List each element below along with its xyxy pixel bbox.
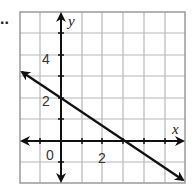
origin-label: 0 <box>46 147 54 163</box>
x-axis-label: x <box>171 121 179 137</box>
y-tick-label-4: 4 <box>42 51 50 67</box>
y-axis-label: y <box>66 13 75 29</box>
coordinate-graph: y x 4 2 0 2 <box>0 0 195 193</box>
y-tick-label-2: 2 <box>42 93 50 109</box>
x-tick-label-2: 2 <box>98 150 106 166</box>
